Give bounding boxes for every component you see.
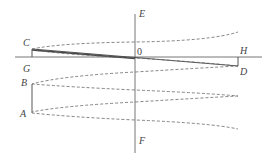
label-D: D <box>239 66 248 77</box>
label-B: B <box>21 77 27 88</box>
label-A: A <box>19 108 27 119</box>
label-C: C <box>23 37 30 48</box>
label-F: F <box>138 135 146 146</box>
diagram-canvas: C G B A E F 0 H D <box>0 0 275 164</box>
label-G: G <box>23 63 30 74</box>
label-E: E <box>138 8 145 19</box>
label-origin: 0 <box>137 46 142 57</box>
label-H: H <box>239 45 248 56</box>
